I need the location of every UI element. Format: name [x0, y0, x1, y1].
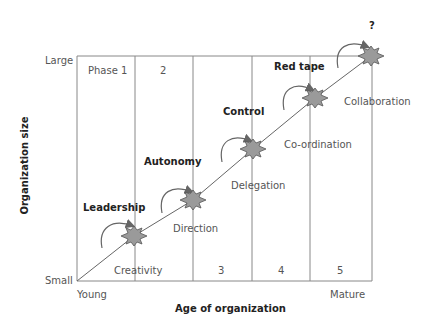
crisis-label: Leadership: [83, 203, 145, 213]
y-axis-title: Organization size: [19, 116, 30, 214]
phase-label: 3: [218, 266, 224, 276]
growth-line: [77, 56, 371, 281]
crisis-burst-icon: [180, 190, 206, 210]
crisis-label: Red tape: [274, 62, 325, 72]
x-axis-start-label: Young: [77, 290, 107, 300]
crisis-label: Control: [223, 107, 264, 117]
phase-label: 5: [337, 266, 343, 276]
y-axis-bottom-label: Small: [45, 276, 73, 286]
y-axis-top-label: Large: [45, 56, 73, 66]
x-axis-end-label: Mature: [330, 290, 365, 300]
x-axis-title: Age of organization: [175, 303, 286, 314]
evolution-label: Co-ordination: [284, 140, 352, 150]
crisis-label: ?: [369, 21, 375, 31]
crisis-label: Autonomy: [144, 157, 201, 167]
phase-label: 4: [278, 266, 284, 276]
evolution-label: Collaboration: [344, 97, 411, 107]
evolution-label: Delegation: [231, 181, 285, 191]
phase-label: Phase 1: [88, 66, 127, 76]
evolution-label: Direction: [173, 224, 218, 234]
evolution-label: Creativity: [114, 266, 162, 276]
phase-label: 2: [160, 66, 166, 76]
